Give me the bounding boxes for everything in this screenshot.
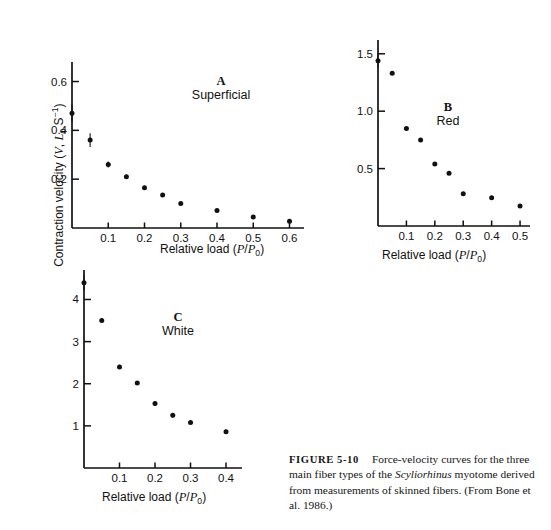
data-point bbox=[461, 191, 466, 196]
y-tick-label: 0.5 bbox=[357, 163, 373, 175]
x-tick-label: 0.3 bbox=[183, 472, 199, 484]
data-point bbox=[418, 137, 423, 142]
panel-a-x-axis-label: Relative load (P/P0) bbox=[160, 242, 264, 258]
x-label-suffix: ) bbox=[260, 242, 264, 256]
panel-b-subtitle: Red bbox=[412, 114, 484, 128]
y-label-comma: , bbox=[52, 140, 66, 147]
x-tick-label: 0.2 bbox=[427, 230, 443, 242]
data-point bbox=[153, 401, 158, 406]
data-point bbox=[518, 203, 523, 208]
x-tick-label: 0.5 bbox=[512, 230, 528, 242]
data-point bbox=[178, 201, 183, 206]
data-point bbox=[376, 58, 381, 63]
data-point bbox=[99, 318, 104, 323]
data-point bbox=[390, 71, 395, 76]
x-tick-label: 0.4 bbox=[484, 230, 501, 242]
panel-b-plot: 0.10.20.30.40.50.51.01.5 bbox=[352, 22, 537, 267]
data-point bbox=[251, 215, 256, 220]
x-tick-label: 0.1 bbox=[112, 472, 128, 484]
x-label-suffix: ) bbox=[482, 248, 486, 262]
panel-b-letter: B bbox=[412, 100, 484, 114]
x-tick-label: 0.6 bbox=[282, 232, 298, 244]
y-label-prefix: Contraction velocity ( bbox=[52, 155, 66, 267]
data-point bbox=[287, 219, 292, 224]
data-point bbox=[82, 280, 87, 285]
y-label-l-sub: 0 bbox=[58, 129, 68, 134]
y-axis-label: Contraction velocity (V, L0 S−1) bbox=[50, 60, 68, 310]
y-tick-label: 1.5 bbox=[357, 48, 373, 60]
panel-a-superficial: 0.10.20.30.40.50.60.20.40.6 A Superficia… bbox=[58, 46, 313, 261]
x-label-prefix: Relative load ( bbox=[160, 242, 237, 256]
y-tick-label: 3 bbox=[73, 336, 79, 348]
y-tick-label: 1.0 bbox=[357, 105, 373, 117]
data-point bbox=[447, 171, 452, 176]
figure-caption: FIGURE 5-10Force-velocity curves for the… bbox=[289, 452, 541, 513]
y-label-s: S bbox=[52, 117, 66, 128]
x-label-prefix: Relative load ( bbox=[102, 490, 179, 504]
panel-c-x-axis-label: Relative load (P/P0) bbox=[102, 490, 206, 506]
x-tick-label: 0.1 bbox=[100, 232, 116, 244]
data-point bbox=[404, 126, 409, 131]
data-point bbox=[117, 364, 122, 369]
panel-c-subtitle: White bbox=[138, 324, 218, 338]
figure-container: 0.10.20.30.40.50.60.20.40.6 A Superficia… bbox=[0, 0, 551, 530]
panel-a-letter: A bbox=[173, 74, 269, 88]
panel-b-title: B Red bbox=[412, 100, 484, 128]
x-tick-label: 0.2 bbox=[147, 472, 163, 484]
x-tick-label: 0.3 bbox=[455, 230, 471, 242]
data-point bbox=[135, 380, 140, 385]
x-tick-label: 0.4 bbox=[218, 472, 235, 484]
data-point bbox=[432, 162, 437, 167]
data-point bbox=[88, 138, 93, 143]
y-label-l: L bbox=[52, 134, 66, 141]
data-point bbox=[142, 185, 147, 190]
figure-number: FIGURE 5-10 bbox=[289, 454, 359, 465]
data-point bbox=[124, 174, 129, 179]
data-point bbox=[489, 195, 494, 200]
x-tick-label: 0.2 bbox=[137, 232, 153, 244]
x-label-suffix: ) bbox=[202, 490, 206, 504]
panel-c-white: 0.10.20.30.41234 C White Relative load (… bbox=[62, 258, 257, 510]
data-point bbox=[215, 208, 220, 213]
panel-b-x-axis-label: Relative load (P/P0) bbox=[382, 248, 486, 264]
y-tick-label: 4 bbox=[73, 293, 80, 305]
data-point bbox=[224, 429, 229, 434]
panel-c-letter: C bbox=[138, 310, 218, 324]
figure-caption-species: Scyliorhinus bbox=[395, 468, 452, 480]
data-point bbox=[188, 420, 193, 425]
y-label-s-sup: −1 bbox=[50, 108, 60, 118]
y-tick-label: 2 bbox=[73, 378, 79, 390]
panel-c-plot: 0.10.20.30.41234 bbox=[62, 258, 257, 510]
data-point bbox=[160, 193, 165, 198]
panel-a-title: A Superficial bbox=[173, 74, 269, 102]
panel-a-subtitle: Superficial bbox=[173, 88, 269, 102]
x-label-prefix: Relative load ( bbox=[382, 248, 459, 262]
panel-c-title: C White bbox=[138, 310, 218, 338]
data-point bbox=[170, 413, 175, 418]
y-tick-label: 1 bbox=[73, 420, 79, 432]
y-label-v: V bbox=[52, 147, 66, 155]
panel-b-red: 0.10.20.30.40.50.51.01.5 B Red Relative … bbox=[352, 22, 537, 267]
data-point bbox=[106, 162, 111, 167]
y-label-suffix: ) bbox=[52, 104, 66, 108]
data-point bbox=[70, 111, 75, 116]
x-tick-label: 0.1 bbox=[398, 230, 414, 242]
